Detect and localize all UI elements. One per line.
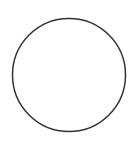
circle-shape	[13, 19, 126, 132]
canvas	[0, 0, 132, 141]
